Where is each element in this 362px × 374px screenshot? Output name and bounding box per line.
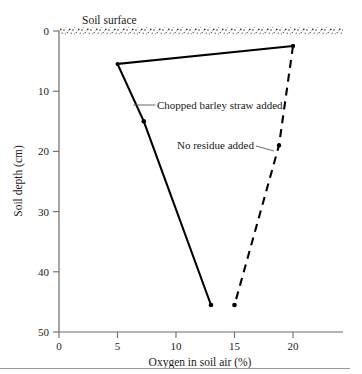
data-point-marker <box>209 303 214 308</box>
annotation-chopped-barley-straw: Chopped barley straw added <box>133 99 283 111</box>
y-tick-label: 10 <box>38 85 50 97</box>
dashed-data-line <box>235 46 294 305</box>
series-no-residue-added <box>232 44 295 307</box>
leader-line <box>256 146 274 151</box>
y-axis-title: Soil depth (cm) <box>12 145 25 217</box>
x-tick-label: 0 <box>56 340 62 352</box>
x-tick-label: 20 <box>288 340 300 352</box>
y-axis-tick-labels: 0 10 20 30 40 50 <box>38 25 50 338</box>
y-tick-label: 50 <box>38 326 50 338</box>
data-point-marker <box>232 303 237 308</box>
y-tick-label: 30 <box>38 206 50 218</box>
data-point-marker <box>291 44 295 48</box>
axis-lines <box>59 31 343 332</box>
soil-surface-band <box>59 27 343 35</box>
figure-container: Soil surface 0 10 20 30 40 50 <box>0 0 362 374</box>
y-tick-label: 40 <box>38 266 50 278</box>
series-chopped-barley-straw-added <box>116 44 296 307</box>
x-tick-label: 5 <box>115 340 121 352</box>
y-tick-label: 0 <box>44 25 50 37</box>
x-axis-tick-labels: 0 5 10 15 20 <box>56 340 299 352</box>
y-tick-label: 20 <box>38 145 50 157</box>
data-point-marker <box>277 143 281 147</box>
oxygen-soil-depth-chart: Soil surface 0 10 20 30 40 50 <box>0 0 362 374</box>
solid-data-line <box>118 46 294 305</box>
annotation-label-chopped-barley-straw: Chopped barley straw added <box>157 99 283 111</box>
x-tick-label: 10 <box>171 340 183 352</box>
soil-surface-label: Soil surface <box>82 14 137 26</box>
annotation-no-residue: No residue added <box>177 139 274 152</box>
data-point-marker <box>142 119 147 124</box>
x-tick-label: 15 <box>229 340 241 352</box>
data-point-marker <box>116 62 120 66</box>
x-axis-ticks <box>59 332 293 338</box>
x-axis-title: Oxygen in soil air (%) <box>149 356 252 369</box>
annotation-label-no-residue: No residue added <box>177 139 254 151</box>
y-axis-ticks <box>53 31 59 332</box>
